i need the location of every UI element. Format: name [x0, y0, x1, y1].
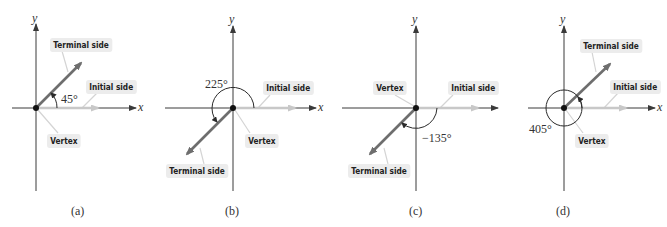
terminal-leader: [592, 52, 596, 72]
initial-leader: [440, 95, 453, 108]
vertex-leader: [38, 110, 58, 133]
terminal-leader: [384, 148, 388, 164]
y-axis-label: y: [412, 13, 417, 25]
vertex-dot: [230, 105, 236, 111]
y-axis-label: y: [229, 13, 234, 25]
vertex-leader: [566, 110, 583, 133]
initial-side-label: Initial side: [86, 80, 136, 94]
vertex-leader: [395, 95, 414, 106]
x-axis-label: x: [318, 101, 323, 113]
caption-b: (b): [225, 205, 239, 217]
angle-diagrams: [0, 0, 667, 227]
angle-label: 45°: [61, 93, 78, 105]
terminal-side: [370, 108, 416, 154]
terminal-side: [187, 108, 233, 154]
initial-leader: [82, 93, 97, 108]
terminal-side: [564, 64, 610, 108]
angle-label: −135°: [422, 132, 452, 144]
vertex-label: Vertex: [245, 134, 279, 148]
y-axis-label: y: [32, 12, 37, 24]
terminal-side-label: Terminal side: [580, 39, 642, 53]
caption-c: (c): [409, 205, 422, 217]
vertex-dot: [561, 105, 567, 111]
x-axis-label: x: [138, 101, 143, 113]
vertex-dot: [33, 105, 39, 111]
terminal-side-label: Terminal side: [166, 164, 228, 178]
terminal-leader: [62, 51, 68, 72]
terminal-side-label: Terminal side: [50, 38, 112, 52]
initial-leader: [604, 93, 618, 108]
terminal-side-label: Terminal side: [348, 164, 410, 178]
vertex-label: Vertex: [373, 81, 407, 95]
x-axis-label: x: [657, 101, 662, 113]
angle-arc: [51, 93, 57, 108]
caption-d: (d): [556, 205, 570, 217]
initial-side-label: Initial side: [263, 81, 313, 95]
caption-a: (a): [71, 205, 84, 217]
vertex-leader: [235, 110, 250, 133]
vertex-label: Vertex: [575, 134, 609, 148]
vertex-dot: [413, 105, 419, 111]
initial-side-label: Initial side: [610, 80, 660, 94]
y-axis-label: y: [560, 13, 565, 25]
angle-label: 225°: [205, 78, 228, 90]
terminal-leader: [200, 148, 204, 164]
initial-leader: [258, 95, 270, 108]
vertex-label: Vertex: [47, 134, 81, 148]
angle-label: 405°: [529, 123, 552, 135]
initial-side-label: Initial side: [448, 81, 498, 95]
